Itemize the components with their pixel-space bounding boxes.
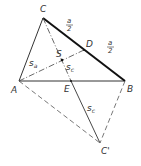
label-half-a-upper-den: 2: [67, 25, 72, 33]
label-S: S: [56, 49, 62, 59]
label-A: A: [10, 85, 17, 95]
label-half-a-lower-den: 2: [108, 47, 113, 55]
label-B: B: [127, 84, 133, 94]
point-E: [70, 80, 72, 82]
geometry-diagram: C A B D E S C' sa sc sc a 2 a 2: [0, 0, 141, 166]
centroid-point: [61, 59, 64, 62]
extension-E-Cprime: [71, 81, 100, 143]
dashed-B-Cprime: [100, 81, 125, 143]
label-median-c: sc: [66, 62, 75, 73]
label-E: E: [64, 84, 70, 94]
label-C: C: [40, 4, 47, 14]
label-C-prime: C': [101, 146, 110, 156]
point-D: [83, 49, 85, 51]
label-median-a: sa: [29, 58, 38, 69]
label-half-a-lower-num: a: [108, 39, 112, 47]
label-median-c-extension: sc: [87, 103, 96, 114]
label-D: D: [86, 39, 93, 49]
label-half-a-upper-num: a: [67, 17, 71, 25]
